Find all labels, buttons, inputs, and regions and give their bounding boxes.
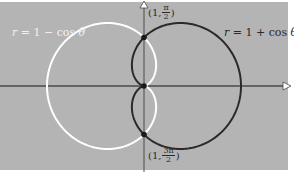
point-close: ): [171, 7, 175, 18]
fraction-denominator: 2: [166, 156, 171, 164]
intersection-top-dot: [141, 35, 147, 41]
point-label-pi-over-2: (1, π2 ): [148, 4, 175, 21]
fraction: 3π2: [162, 147, 174, 164]
fraction: π2: [162, 4, 169, 21]
label-theta: θ: [291, 26, 294, 39]
point-label-3pi-over-2: (1, 3π2 ): [148, 147, 180, 164]
point-open: (1,: [148, 150, 161, 161]
label-eq: = 1 − cos: [17, 26, 78, 39]
intersection-bottom-dot: [141, 132, 147, 138]
y-axis-arrow-icon: [140, 1, 148, 8]
label-one-plus-cos: r = 1 + cos θ: [224, 27, 294, 38]
point-close: ): [176, 150, 180, 161]
point-open: (1,: [148, 7, 161, 18]
fraction-denominator: 2: [164, 13, 169, 21]
label-eq: = 1 + cos: [229, 26, 290, 39]
label-theta: θ: [79, 26, 86, 39]
intersection-origin-dot: [141, 83, 147, 89]
label-one-minus-cos: r = 1 − cos θ: [12, 27, 85, 38]
x-axis-arrow-icon: [283, 82, 291, 90]
